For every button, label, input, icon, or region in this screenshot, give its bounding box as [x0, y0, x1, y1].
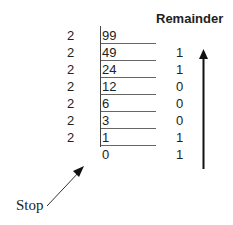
read-up-arrow-icon — [199, 49, 208, 169]
stop-label: Stop — [16, 197, 44, 214]
arrows-layer — [0, 0, 233, 225]
stop-pointer-arrow-icon — [47, 166, 84, 206]
